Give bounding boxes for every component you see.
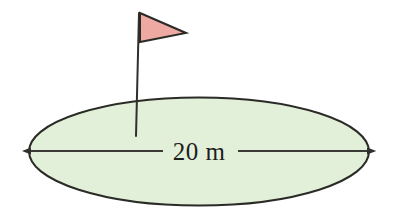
flag-banner-icon [140, 13, 186, 42]
dimension-label: 20 m [173, 138, 226, 165]
figure-canvas: 20 m [0, 0, 396, 223]
figure-container: 20 m [0, 0, 396, 223]
